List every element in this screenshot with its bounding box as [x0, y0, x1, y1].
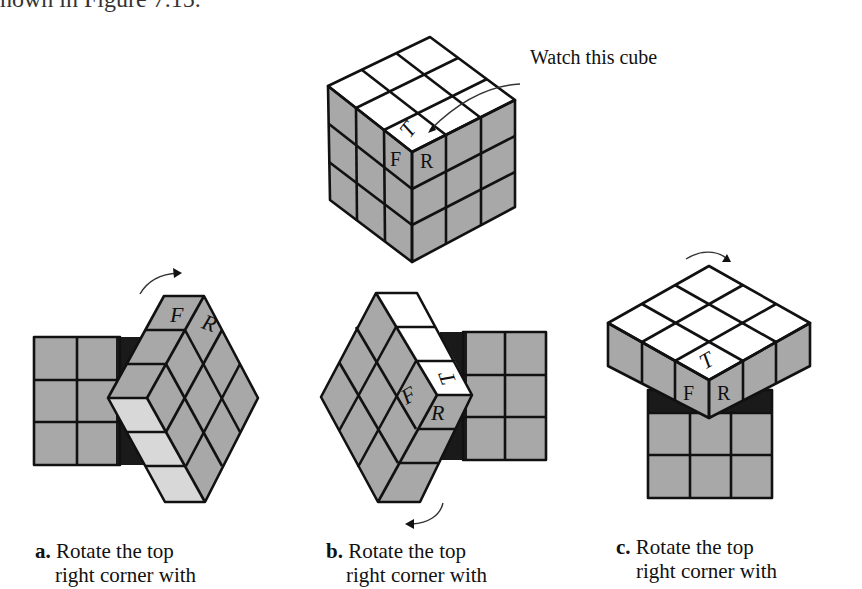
caption-a: a. Rotate the top right corner with: [35, 539, 196, 587]
main-cube: T F R: [328, 37, 520, 262]
rubiks-cube-figure: T F R: [0, 0, 862, 589]
panel-a-front-label: F: [169, 302, 184, 327]
caption-c-line1: Rotate the top: [636, 535, 754, 559]
caption-b: b. Rotate the top right corner with: [326, 539, 487, 587]
panel-b-cube: T F R: [321, 293, 546, 529]
caption-b-line2: right corner with: [326, 563, 487, 587]
panel-c-front-label: F: [683, 382, 694, 404]
main-cube-front-label: F: [390, 148, 401, 170]
caption-a-letter: a.: [35, 539, 51, 563]
caption-b-letter: b.: [326, 539, 343, 563]
caption-a-line1: Rotate the top: [56, 539, 174, 563]
panel-c-right-label: R: [717, 382, 731, 404]
caption-c-letter: c.: [616, 535, 631, 559]
caption-c-line2: right corner with: [616, 559, 777, 583]
panel-a-cube: F R: [34, 268, 258, 502]
watch-this-cube-callout: Watch this cube: [530, 46, 657, 69]
caption-a-line2: right corner with: [35, 563, 196, 587]
panel-c-cube: T F R: [608, 252, 810, 498]
caption-b-line1: Rotate the top: [348, 539, 466, 563]
main-cube-right-label: R: [420, 150, 434, 172]
panel-b-right-label: R: [430, 400, 445, 425]
caption-c: c. Rotate the top right corner with: [616, 535, 777, 583]
